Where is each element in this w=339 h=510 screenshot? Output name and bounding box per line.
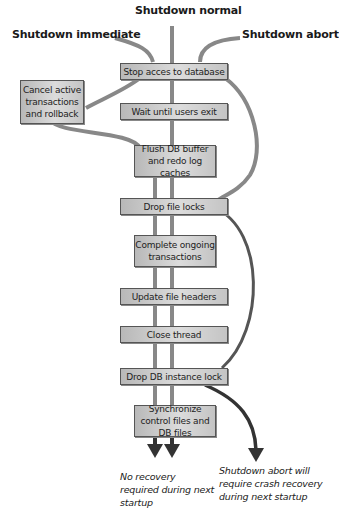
abort-path-entry (200, 38, 240, 62)
mode-abort-label: Shutdown abort (242, 28, 339, 41)
step-close-thread: Close thread (120, 326, 228, 343)
step-drop-instance-lock: Drop DB instance lock (120, 368, 228, 385)
step-cancel-tx: Cancel active transactions and rollback (20, 80, 84, 124)
abort-path-upper (218, 78, 257, 200)
step-stop-access: Stop acces to database (120, 63, 228, 80)
immediate-path-entry (115, 38, 153, 62)
mode-immediate-label: Shutdown immediate (12, 28, 140, 41)
step-update-headers: Update file headers (120, 288, 228, 305)
mode-normal-label: Shutdown normal (135, 4, 242, 17)
arrow-down-icon (147, 444, 163, 458)
step-sync: Synchronize control files and DB files (134, 405, 216, 437)
step-flush: Flush DB buffer and redo log caches (134, 145, 216, 177)
step-drop-file-locks: Drop file locks (120, 198, 228, 215)
cancel-to-flush (50, 120, 140, 148)
arrow-down-icon (164, 444, 180, 458)
outcome-abort-recovery: Shutdown abort will require crash recove… (219, 464, 329, 503)
outcome-no-recovery: No recovery required during next startup (120, 470, 215, 509)
step-wait-users: Wait until users exit (120, 103, 228, 120)
step-complete-tx: Complete ongoing transactions (134, 235, 216, 267)
arrow-down-icon (248, 448, 264, 462)
